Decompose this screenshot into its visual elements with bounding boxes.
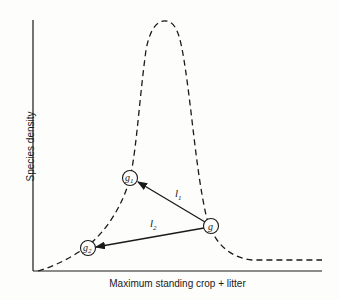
- edge-label-l2: l2: [150, 217, 157, 232]
- svg-text:g: g: [208, 221, 213, 232]
- node-g2: g2: [81, 241, 96, 256]
- node-g1: g1: [123, 171, 138, 186]
- diagram-canvas: l1 l2 g1 g g2: [0, 0, 339, 300]
- x-axis-label: Maximum standing crop + litter: [33, 278, 322, 289]
- node-g: g: [204, 219, 219, 234]
- edge-g-to-g2: [96, 228, 204, 247]
- edge-g-to-g1: [138, 182, 205, 222]
- edge-label-l1: l1: [175, 187, 182, 202]
- diagram: l1 l2 g1 g g2 Species density Maximum st…: [0, 0, 339, 300]
- species-density-curve: [38, 21, 322, 271]
- y-axis-label: Species density: [25, 87, 36, 207]
